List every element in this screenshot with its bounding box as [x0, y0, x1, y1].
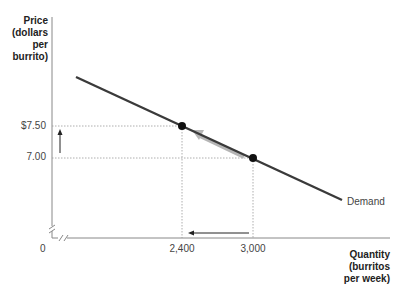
x-axis-title-line2: (burritos	[320, 261, 390, 273]
y-axis-title-line2: (dollars	[0, 27, 48, 39]
origin-label: 0	[40, 243, 46, 254]
demand-curve	[76, 77, 342, 200]
quantity-arrow-left-icon	[188, 231, 194, 236]
x-axis-break-icon	[59, 235, 68, 241]
y-axis-title-line4: burrito)	[0, 51, 48, 63]
demand-label: Demand	[347, 196, 385, 207]
y-axis-title-line1: Price	[0, 15, 48, 27]
x-axis-title-line1: Quantity	[320, 249, 390, 261]
x-tick-2400: 2,400	[166, 243, 198, 254]
x-axis-title-line3: per week)	[320, 273, 390, 285]
point-2400-750	[178, 122, 186, 130]
x-tick-3000: 3,000	[237, 243, 269, 254]
y-tick-700: 7.00	[16, 151, 46, 162]
movement-arrow-shaft	[200, 136, 244, 157]
point-3000-700	[249, 154, 257, 162]
y-axis-title-line3: per	[0, 39, 48, 51]
price-arrow-up-icon	[58, 129, 63, 135]
y-tick-750: $7.50	[16, 120, 46, 131]
y-axis-title: Price (dollars per burrito)	[0, 15, 48, 63]
x-axis-title: Quantity (burritos per week)	[320, 249, 390, 285]
